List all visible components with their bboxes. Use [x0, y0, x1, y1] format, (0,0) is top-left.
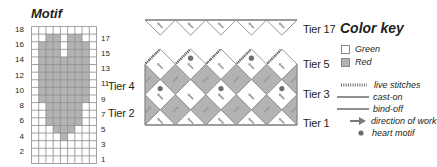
motif-filled-cell [60, 118, 67, 126]
row-number-9: 9 [101, 96, 105, 104]
motif-filled-cell [82, 95, 89, 103]
motif-filled-cell [60, 65, 67, 73]
heart-motif-dot [218, 86, 223, 91]
key-item-red: Red [341, 57, 372, 67]
motif-filled-cell [60, 95, 67, 103]
motif-filled-cell [60, 87, 67, 95]
tier-17-triangle [145, 20, 175, 35]
green-swatch [341, 45, 350, 54]
row-number-4: 4 [6, 133, 24, 141]
motif-filled-cell [68, 72, 75, 80]
row-number-10: 10 [6, 87, 24, 95]
row-number-12: 12 [6, 72, 24, 80]
tier-3-label: Tier 3 [303, 88, 330, 100]
tier-5-label: Tier 5 [303, 58, 330, 70]
motif-filled-cell [53, 118, 60, 126]
row-number-17: 17 [101, 35, 110, 43]
motif-filled-cell [39, 80, 46, 88]
motif-filled-cell [82, 87, 89, 95]
motif-filled-cell [53, 110, 60, 118]
motif-filled-cell [39, 87, 46, 95]
motif-filled-cell [39, 65, 46, 73]
motif-filled-cell [39, 57, 46, 65]
legend-bind-off: bind-off [337, 104, 403, 114]
motif-filled-cell [68, 118, 75, 126]
legend-direction-of-work: direction of work [350, 116, 437, 126]
motif-filled-cell [53, 65, 60, 73]
motif-filled-cell [39, 42, 46, 50]
motif-filled-cell [68, 57, 75, 65]
row-number-16: 16 [6, 41, 24, 49]
motif-filled-cell [75, 65, 82, 73]
tier-4-label: Tier 4 [108, 80, 135, 92]
legend-heart-motif: heart motif [358, 128, 415, 138]
motif-filled-cell [75, 34, 82, 42]
bind-off-label: bind-off [373, 104, 403, 114]
row-number-6: 6 [6, 117, 24, 125]
motif-filled-cell [75, 95, 82, 103]
tier-construction-diagram [140, 14, 305, 132]
live-stitches-label: live stitches [374, 80, 421, 90]
motif-filled-cell [39, 72, 46, 80]
green-label: Green [355, 44, 380, 54]
heart-motif-label: heart motif [372, 128, 415, 138]
tier-17-triangle [206, 20, 236, 35]
row-number-18: 18 [6, 26, 24, 34]
heart-motif-dot [279, 86, 284, 91]
motif-filled-cell [68, 95, 75, 103]
motif-filled-cell [46, 49, 53, 57]
motif-filled-cell [60, 80, 67, 88]
motif-filled-cell [46, 87, 53, 95]
cast-on-line-icon [337, 95, 369, 99]
motif-filled-cell [46, 57, 53, 65]
motif-filled-cell [46, 34, 53, 42]
red-label: Red [355, 57, 372, 67]
heart-motif-dot [249, 56, 254, 61]
motif-filled-cell [75, 110, 82, 118]
motif-filled-cell [82, 80, 89, 88]
tier-1-label: Tier 1 [303, 117, 330, 129]
heart-motif-dot [188, 56, 193, 61]
motif-filled-cell [46, 95, 53, 103]
motif-filled-cell [75, 57, 82, 65]
motif-filled-cell [75, 118, 82, 126]
motif-filled-cell [46, 72, 53, 80]
motif-filled-cell [53, 34, 60, 42]
motif-filled-cell [82, 42, 89, 50]
motif-filled-cell [75, 72, 82, 80]
motif-filled-cell [46, 80, 53, 88]
motif-filled-cell [60, 125, 67, 133]
key-item-green: Green [341, 44, 380, 54]
heart-motif-dot [158, 86, 163, 91]
motif-filled-cell [68, 110, 75, 118]
row-number-2: 2 [6, 148, 24, 156]
motif-filled-cell [60, 110, 67, 118]
motif-filled-cell [75, 42, 82, 50]
motif-filled-cell [46, 110, 53, 118]
direction-of-work-label: direction of work [371, 116, 437, 126]
motif-filled-cell [68, 125, 75, 133]
motif-filled-cell [75, 49, 82, 57]
bind-off-line-icon [337, 107, 369, 111]
tier-17-triangle [236, 20, 266, 35]
motif-filled-cell [75, 103, 82, 111]
red-swatch [341, 58, 350, 67]
motif-filled-cell [39, 95, 46, 103]
motif-filled-cell [82, 72, 89, 80]
motif-filled-cell [53, 49, 60, 57]
motif-filled-cell [75, 80, 82, 88]
motif-filled-cell [53, 72, 60, 80]
legend-cast-on: cast-on [337, 92, 403, 102]
motif-filled-cell [68, 87, 75, 95]
row-number-5: 5 [101, 126, 105, 134]
cast-on-label: cast-on [373, 92, 403, 102]
motif-filled-cell [75, 87, 82, 95]
row-number-3: 3 [101, 141, 105, 149]
motif-filled-cell [53, 103, 60, 111]
row-number-14: 14 [6, 56, 24, 64]
motif-title: Motif [31, 6, 62, 21]
motif-filled-cell [46, 42, 53, 50]
tier-2-label: Tier 2 [108, 107, 135, 119]
motif-filled-cell [60, 133, 67, 141]
motif-filled-cell [53, 80, 60, 88]
